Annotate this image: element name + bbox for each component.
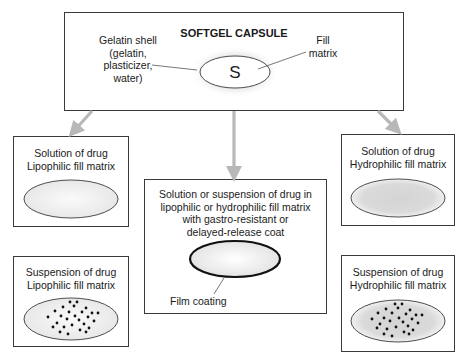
shell-leader-line bbox=[152, 65, 197, 70]
arrow-right-icon bbox=[378, 111, 396, 129]
coated-capsule-icon bbox=[190, 241, 280, 294]
softgel-capsule-icon: S bbox=[152, 46, 306, 98]
arrow-icons bbox=[74, 111, 396, 174]
hydrophilic-suspension-capsule-icon bbox=[351, 300, 445, 342]
lipophilic-suspension-capsule-icon bbox=[24, 298, 118, 340]
film-coating-leader-line bbox=[214, 278, 224, 294]
diagram-graphics: S bbox=[0, 0, 471, 360]
hydrophilic-solution-capsule-icon bbox=[351, 179, 445, 217]
arrow-left-icon bbox=[74, 111, 92, 131]
capsule-symbol: S bbox=[229, 63, 240, 82]
lipophilic-solution-capsule-icon bbox=[24, 180, 118, 218]
